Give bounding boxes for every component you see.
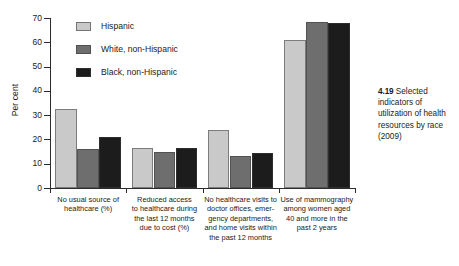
figure-container: 010203040506070 Per cent HispanicWhite, … <box>0 0 459 266</box>
x-axis-label-line: and home visits within <box>204 223 278 232</box>
bar <box>132 148 154 188</box>
x-axis-label-line: the last 12 months <box>127 214 201 223</box>
bar <box>154 152 176 188</box>
x-axis-label-line: healthcare (%) <box>51 204 125 213</box>
bar <box>252 153 274 188</box>
bar <box>77 149 99 188</box>
x-axis-label-line: among women aged <box>280 204 354 213</box>
bar <box>55 109 77 188</box>
bar <box>306 22 328 188</box>
chart-legend: HispanicWhite, non-HispanicBlack, non-Hi… <box>76 17 246 86</box>
y-axis-tick-label: 50 <box>0 62 42 70</box>
x-axis-tick <box>126 188 127 193</box>
x-axis-label-line: past 2 years <box>280 223 354 232</box>
x-axis-label-line: due to cost (%) <box>127 223 201 232</box>
legend-label: White, non-Hispanic <box>101 44 178 54</box>
x-axis-tick <box>203 188 204 193</box>
legend-item: Black, non-Hispanic <box>76 63 246 81</box>
bar <box>328 23 350 188</box>
y-axis-tick-label: 0 <box>0 184 42 192</box>
x-axis-label-line: Reduced access <box>127 195 201 204</box>
bar <box>284 40 306 188</box>
x-axis-label-line: 40 and more in the <box>280 214 354 223</box>
x-axis-label-line: doctor offices, emer- <box>204 204 278 213</box>
x-axis-label-line: No usual source of <box>51 195 125 204</box>
legend-item: Hispanic <box>76 17 246 35</box>
legend-swatch-icon <box>76 45 91 54</box>
x-axis-label: Use of mammographyamong women aged40 and… <box>280 195 354 233</box>
y-axis-tick-label: 40 <box>0 86 42 94</box>
x-axis-label-line: the past 12 months <box>204 233 278 242</box>
x-axis-label: No healthcare visits todoctor offices, e… <box>204 195 278 242</box>
x-axis-label-line: Use of mammography <box>280 195 354 204</box>
legend-item: White, non-Hispanic <box>76 40 246 58</box>
x-axis-label: Reduced accessto healthcare duringthe la… <box>127 195 201 233</box>
x-axis-tick <box>50 188 51 193</box>
y-axis-tick-label: 20 <box>0 135 42 143</box>
legend-label: Hispanic <box>101 21 134 31</box>
y-axis-tick-label: 30 <box>0 111 42 119</box>
bar <box>99 137 121 188</box>
legend-swatch-icon <box>76 68 91 77</box>
figure-caption-number: 4.19 <box>378 87 394 96</box>
x-axis-label-line: to healthcare during <box>127 204 201 213</box>
y-axis-tick-label: 60 <box>0 38 42 46</box>
legend-swatch-icon <box>76 22 91 31</box>
x-axis-label: No usual source ofhealthcare (%) <box>51 195 125 214</box>
x-axis-tick <box>279 188 280 193</box>
x-axis-label-line: No healthcare visits to <box>204 195 278 204</box>
x-axis-tick <box>355 188 356 193</box>
figure-caption: 4.19 Selected indicators of utilization … <box>378 86 458 142</box>
y-axis-tick-label: 10 <box>0 159 42 167</box>
legend-label: Black, non-Hispanic <box>101 67 177 77</box>
x-axis-labels: No usual source ofhealthcare (%)Reduced … <box>50 195 355 265</box>
x-axis-label-line: gency departments, <box>204 214 278 223</box>
bar <box>230 156 252 188</box>
bar <box>208 130 230 188</box>
y-axis-title: Per cent <box>10 65 20 135</box>
bar <box>176 148 198 188</box>
y-axis-tick-label: 70 <box>0 14 42 22</box>
